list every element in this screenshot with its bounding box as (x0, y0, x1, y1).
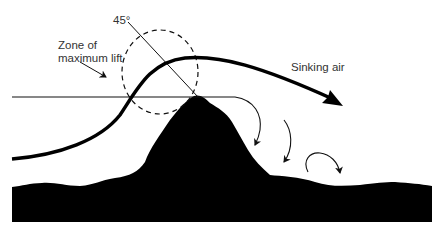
zone-pointer-arrow (80, 62, 106, 77)
rotor-arrow (306, 153, 340, 173)
zone-label-line1: Zone of (58, 39, 98, 51)
diagram-canvas: 45° Zone of maximum lift Sinking air (0, 0, 445, 233)
downdraft-arrow-1 (284, 120, 291, 162)
terrain-mountain (12, 95, 432, 222)
angle-label: 45° (113, 14, 130, 26)
ridge-lift-diagram: 45° Zone of maximum lift Sinking air (0, 0, 445, 233)
zone-label-line2: maximum lift (58, 52, 123, 64)
sinking-air-label: Sinking air (291, 61, 345, 73)
sinking-air-arrowhead-icon (322, 90, 343, 106)
